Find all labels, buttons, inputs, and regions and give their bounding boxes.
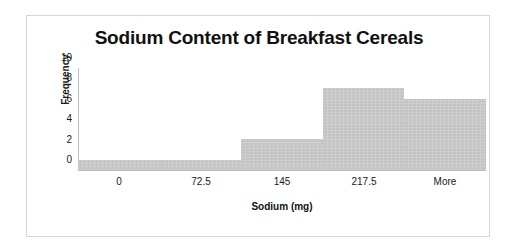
y-axis-tick-10: 10 xyxy=(50,53,72,63)
x-axis-title: Sodium (mg) xyxy=(78,201,486,212)
x-axis-tick-label: 72.5 xyxy=(160,176,242,188)
histogram-bar xyxy=(323,88,404,170)
x-axis-tick-labels: 072.5145217.5More xyxy=(78,176,486,190)
scan-artifact-fragments xyxy=(28,0,148,12)
chart-container: Sodium Content of Breakfast Cereals Freq… xyxy=(26,15,490,237)
x-axis-tick-label: 145 xyxy=(241,176,323,188)
y-axis-tick-2: 2 xyxy=(50,135,72,145)
histogram-bar xyxy=(241,139,323,170)
y-axis-tick-6: 6 xyxy=(50,94,72,104)
x-axis-tick-label: 0 xyxy=(78,176,160,188)
histogram-bars xyxy=(78,68,486,170)
x-axis-tick-label: More xyxy=(404,176,486,188)
histogram-bar xyxy=(404,99,486,170)
y-axis-tick-8: 8 xyxy=(50,73,72,83)
plot-area xyxy=(78,53,486,170)
y-axis-tick-0: 0 xyxy=(50,155,72,165)
x-axis-tick-label: 217.5 xyxy=(323,176,405,188)
y-axis-tick-labels: 10 8 6 4 2 0 xyxy=(48,53,72,170)
chart-title: Sodium Content of Breakfast Cereals xyxy=(27,27,491,49)
x-axis-line xyxy=(78,170,486,171)
histogram-bar xyxy=(78,160,160,170)
y-axis-tick-4: 4 xyxy=(50,114,72,124)
histogram-bar xyxy=(160,160,241,170)
